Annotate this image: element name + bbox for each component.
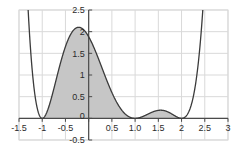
x-tick-label: 1.0 bbox=[129, 123, 142, 133]
y-tick-label: -0.5 bbox=[69, 135, 85, 145]
x-tick-label: -1 bbox=[38, 123, 46, 133]
x-tick-label: 0.5 bbox=[106, 123, 119, 133]
x-tick-label: 2.5 bbox=[199, 123, 212, 133]
y-tick-label: 2.5 bbox=[72, 5, 85, 15]
x-tick-label: -0.5 bbox=[58, 123, 74, 133]
y-tick-label: 2 bbox=[80, 27, 85, 37]
y-tick-label: 0.5 bbox=[72, 92, 85, 102]
x-tick-label: 3 bbox=[225, 123, 230, 133]
x-tick-label: 2 bbox=[179, 123, 184, 133]
y-tick-label: 1.5 bbox=[72, 49, 85, 59]
chart-figure: -1.5-1-0.50.51.01.522.53 -0.500.511.522.… bbox=[0, 0, 241, 158]
y-tick-label: 1 bbox=[80, 70, 85, 80]
x-tick-label: 1.5 bbox=[152, 123, 165, 133]
plot-svg: -1.5-1-0.50.51.01.522.53 -0.500.511.522.… bbox=[0, 0, 241, 158]
y-tick-label: 0 bbox=[80, 111, 85, 121]
x-tick-label: -1.5 bbox=[11, 123, 27, 133]
